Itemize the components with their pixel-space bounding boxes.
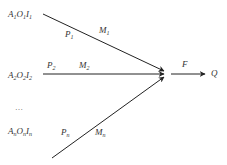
input-node-2-label: A2O2I2 [8, 71, 32, 81]
edge-2-p-label: P2 [47, 61, 56, 71]
input-node-1-label: A1O1I1 [8, 10, 32, 20]
input-arrow-1 [43, 14, 164, 71]
diagram-canvas [0, 0, 227, 165]
edge-1-m-label: M1 [99, 26, 110, 36]
edge-n-m-label: Mn [95, 128, 106, 138]
edge-1-p-label: P1 [65, 30, 74, 40]
edge-2-m-label: M2 [79, 61, 90, 71]
edge-n-p-label: Pn [61, 128, 70, 138]
node-subscript: 1 [29, 14, 32, 20]
input-arrow-n [52, 77, 164, 158]
output-label: Q [211, 69, 218, 78]
ellipsis: … [15, 104, 23, 112]
function-label: F [182, 60, 188, 69]
input-node-n-label: AnOnIn [8, 127, 32, 137]
